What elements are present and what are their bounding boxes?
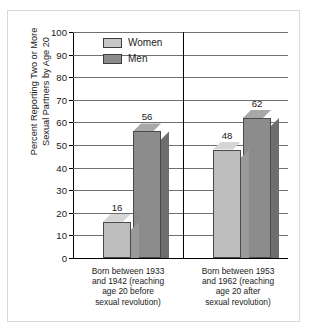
chart-figure: Percent Reporting Two or More Sexual Par… <box>0 0 309 332</box>
bar-value-label: 62 <box>252 98 263 109</box>
y-axis-tick-label: 90 <box>56 49 67 60</box>
x-axis-category-label-0: Born between 1933 and 1942 (reaching age… <box>68 266 188 307</box>
y-axis-tick-label: 40 <box>56 162 67 173</box>
legend-item-women: Women <box>103 37 162 48</box>
y-axis-tick <box>69 235 73 236</box>
y-axis-tick-label: 20 <box>56 207 67 218</box>
bar-value-label: 16 <box>112 202 123 213</box>
bar-women-group-1: 48 <box>213 150 241 258</box>
y-axis-tick <box>69 145 73 146</box>
x-axis-category-label-1: Born between 1953 and 1962 (reaching age… <box>178 266 298 307</box>
y-axis-tick <box>69 55 73 56</box>
y-axis-tick-label: 30 <box>56 185 67 196</box>
y-axis-tick-label: 70 <box>56 94 67 105</box>
y-axis-tick-label: 10 <box>56 230 67 241</box>
bar-women-group-0: 16 <box>103 222 131 258</box>
y-axis-tick <box>69 100 73 101</box>
bar-top-face <box>103 214 131 222</box>
legend: Women Men <box>103 37 162 69</box>
bar-front-face <box>213 150 241 258</box>
y-axis-tick <box>69 258 73 259</box>
y-axis-tick-label: 0 <box>62 253 67 264</box>
gridline <box>73 32 288 33</box>
y-axis-tick <box>69 77 73 78</box>
legend-label-women: Women <box>128 37 162 48</box>
bar-top-face <box>133 123 161 131</box>
category-divider <box>183 32 184 258</box>
y-axis-tick <box>69 168 73 169</box>
bar-top-face <box>243 110 271 118</box>
legend-label-men: Men <box>128 53 147 64</box>
plot-area: 1009080706050403020100 16564862 Women Me… <box>73 32 288 258</box>
bar-top-face <box>213 142 241 150</box>
bar-side-face <box>271 118 279 258</box>
y-axis-tick-label: 100 <box>51 27 67 38</box>
legend-swatch-women-icon <box>103 38 122 48</box>
bar-value-label: 56 <box>142 111 153 122</box>
gridline <box>73 77 288 78</box>
legend-item-men: Men <box>103 53 162 64</box>
y-axis-tick <box>69 122 73 123</box>
gridline <box>73 258 288 259</box>
y-axis-title: Percent Reporting Two or More Sexual Par… <box>29 0 52 202</box>
bar-side-face <box>161 131 169 258</box>
y-axis-tick <box>69 32 73 33</box>
bar-value-label: 48 <box>222 130 233 141</box>
y-axis-tick <box>69 190 73 191</box>
bar-side-face <box>241 150 249 258</box>
bar-front-face <box>103 222 131 258</box>
y-axis-tick-label: 50 <box>56 140 67 151</box>
y-axis-tick <box>69 213 73 214</box>
y-axis-tick-label: 80 <box>56 72 67 83</box>
y-axis-tick-label: 60 <box>56 117 67 128</box>
legend-swatch-men-icon <box>103 54 122 64</box>
